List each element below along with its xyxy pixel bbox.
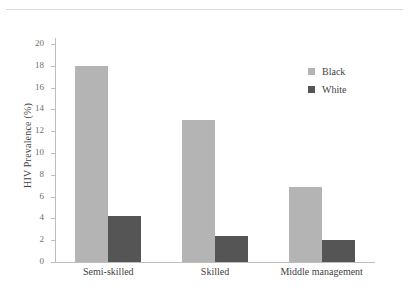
y-tick-label: 20 bbox=[35, 37, 44, 50]
bar-black-semi-skilled bbox=[75, 66, 108, 262]
y-tick-mark bbox=[51, 131, 55, 132]
y-tick-mark bbox=[51, 197, 55, 198]
legend-swatch-icon bbox=[308, 86, 315, 93]
y-axis-line bbox=[55, 38, 56, 263]
y-tick-mark bbox=[51, 175, 55, 176]
bar-black-middle-management bbox=[289, 187, 322, 262]
y-tick-label: 4 bbox=[40, 211, 45, 224]
legend-swatch-icon bbox=[308, 68, 315, 75]
y-tick-mark bbox=[51, 240, 55, 241]
bar-white-semi-skilled bbox=[108, 216, 141, 262]
x-axis-line bbox=[55, 262, 375, 263]
y-tick-mark bbox=[51, 88, 55, 89]
y-tick-label: 16 bbox=[35, 81, 44, 94]
y-tick-label: 10 bbox=[35, 146, 44, 159]
legend-label: White bbox=[322, 82, 346, 97]
y-tick-mark bbox=[51, 262, 55, 263]
legend-item-black: Black bbox=[308, 64, 346, 79]
bar-chart: 02468101214161820 HIV Prevalence (%) Sem… bbox=[0, 0, 409, 299]
y-tick-mark bbox=[51, 218, 55, 219]
y-tick-mark bbox=[51, 109, 55, 110]
y-tick-mark bbox=[51, 44, 55, 45]
x-tick-label: Middle management bbox=[242, 266, 402, 277]
legend: BlackWhite bbox=[308, 64, 346, 100]
legend-label: Black bbox=[322, 64, 345, 79]
y-tick-label: 12 bbox=[35, 124, 44, 137]
bar-white-skilled bbox=[215, 236, 248, 262]
y-tick-label: 2 bbox=[40, 233, 45, 246]
legend-item-white: White bbox=[308, 82, 346, 97]
y-tick-label: 8 bbox=[40, 168, 45, 181]
bar-white-middle-management bbox=[322, 240, 355, 262]
y-axis-label: HIV Prevalence (%) bbox=[22, 66, 33, 226]
y-tick-mark bbox=[51, 153, 55, 154]
y-tick-label: 14 bbox=[35, 102, 44, 115]
bar-black-skilled bbox=[182, 120, 215, 262]
y-tick-mark bbox=[51, 66, 55, 67]
y-tick-label: 6 bbox=[40, 190, 45, 203]
y-tick-label: 18 bbox=[35, 59, 44, 72]
